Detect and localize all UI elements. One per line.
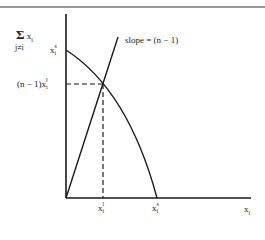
x-tick-xis: xsi — [152, 204, 162, 214]
slope-label: slope = (n − 1) — [125, 36, 178, 45]
y-tick-n-minus-1-xil: (n − 1)xli — [17, 80, 51, 90]
sum-symbol: Σ — [16, 27, 25, 42]
x-tick-xil: xli — [98, 204, 108, 214]
slope-line — [66, 37, 118, 198]
y-tick-xis: xsi — [50, 46, 60, 56]
reaction-curve — [66, 50, 157, 198]
x-axis-label: xi — [244, 205, 250, 214]
y-axis-index-condition: j≠i — [15, 44, 24, 52]
y-axis-variable-subscript: i — [31, 37, 33, 43]
y-axis-label: Σ xi — [16, 28, 33, 41]
